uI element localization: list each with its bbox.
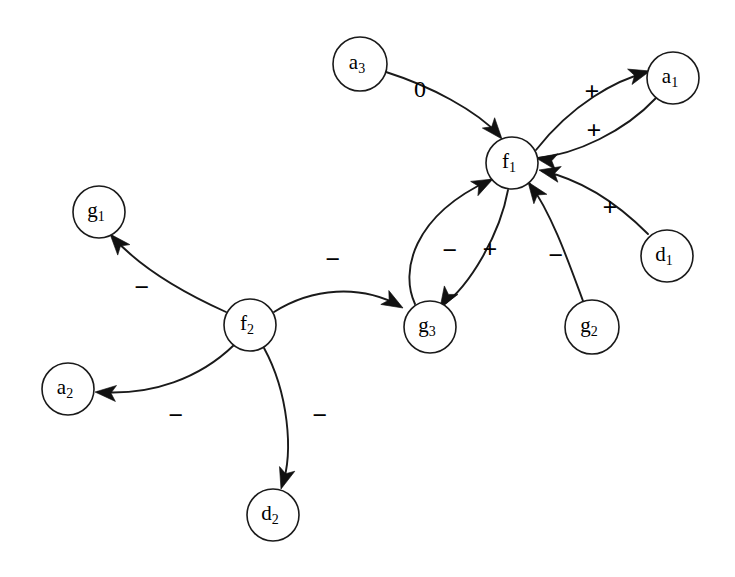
node-d2[interactable]: d2 (247, 489, 299, 541)
edge-label-f1-a1: + (585, 77, 600, 106)
node-a2[interactable]: a2 (42, 363, 94, 415)
edge-f2-d2 (264, 348, 288, 486)
edge-label-a1-f1: + (587, 116, 602, 145)
edge-label-f2-a2: − (169, 401, 184, 430)
edge-label-f2-g3: − (326, 245, 341, 274)
graph-svg: 0++−+−+−−−− a3a1f1g1d1f2g3g2a2d2 (0, 0, 735, 577)
edge-f2-a2 (98, 345, 234, 393)
edge-d1-f1 (542, 171, 648, 234)
node-a3[interactable]: a3 (333, 37, 387, 91)
node-f2[interactable]: f2 (224, 299, 276, 351)
arrowhead-f2-g3 (381, 291, 407, 315)
node-g3[interactable]: g3 (404, 301, 456, 353)
node-d1[interactable]: d1 (641, 230, 693, 282)
edge-f2-g1 (112, 236, 226, 312)
edge-label-d1-f1: + (603, 193, 618, 222)
edge-label-a3-f1: 0 (414, 76, 426, 102)
diagram-canvas: 0++−+−+−−−− a3a1f1g1d1f2g3g2a2d2 (0, 0, 735, 577)
edge-f2-g3 (274, 292, 400, 312)
edge-a3-f1 (386, 72, 500, 136)
edge-label-f2-d2: − (313, 401, 328, 430)
edge-label-f1-g3: + (483, 235, 498, 264)
edge-label-f2-g1: − (135, 273, 150, 302)
node-a1[interactable]: a1 (647, 52, 699, 104)
edge-label-g3-f1: − (443, 236, 458, 265)
edge-label-g2-f1: − (549, 241, 564, 270)
node-g2[interactable]: g2 (565, 300, 619, 354)
node-g1[interactable]: g1 (73, 186, 125, 238)
edge-labels-layer: 0++−+−+−−−− (135, 76, 618, 430)
arrowhead-f2-d2 (273, 467, 294, 492)
node-f1[interactable]: f1 (486, 137, 538, 189)
